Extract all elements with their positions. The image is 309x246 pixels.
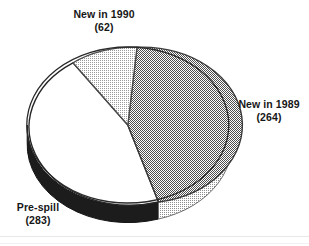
pie-label-new-1989-value: (264) [232, 111, 306, 124]
pie-label-new-1990: New in 1990 (62) [64, 8, 144, 33]
pie-label-pre-spill: Pre-spill (283) [6, 201, 70, 226]
pie-label-new-1990-name: New in 1990 [73, 8, 134, 20]
pie-label-pre-spill-value: (283) [6, 214, 70, 227]
pie-label-new-1989-name: New in 1989 [238, 98, 299, 110]
pie-label-new-1990-value: (62) [64, 21, 144, 34]
scan-artifact-line [0, 236, 309, 237]
pie-label-pre-spill-name: Pre-spill [17, 201, 59, 213]
pie-label-new-1989: New in 1989 (264) [232, 98, 306, 123]
pie-chart-figure: New in 1990 (62) New in 1989 (264) Pre-s… [0, 0, 309, 246]
scan-artifact-line-secondary [0, 243, 309, 244]
